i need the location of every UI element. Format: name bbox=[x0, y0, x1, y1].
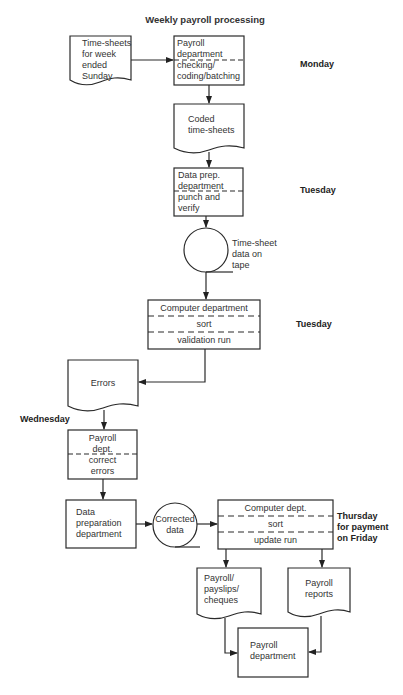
payroll-correct-label: Payroll dept. correct errors bbox=[68, 433, 137, 477]
line: ended bbox=[82, 60, 131, 71]
line: dept. bbox=[68, 444, 137, 455]
line: tape bbox=[232, 260, 277, 271]
computer-update-sort: sort bbox=[218, 519, 333, 530]
line: Time-sheet bbox=[232, 238, 277, 249]
line: Coded bbox=[188, 114, 235, 125]
line: time-sheets bbox=[188, 125, 235, 136]
diagram-title: Weekly payroll processing bbox=[120, 14, 290, 25]
line: verify bbox=[178, 203, 224, 214]
line: department bbox=[76, 529, 122, 540]
line: on Friday bbox=[337, 533, 389, 544]
computer-validation-header: Computer department bbox=[148, 303, 260, 314]
line: checking/ bbox=[177, 60, 240, 71]
payroll-final-label: Payroll department bbox=[250, 640, 296, 662]
line: Corrected bbox=[153, 514, 197, 525]
line: Sunday bbox=[82, 71, 131, 82]
errors-label: Errors bbox=[68, 378, 138, 389]
payslips-label: Payroll/ payslips/ cheques bbox=[204, 573, 239, 606]
line: Data bbox=[76, 507, 122, 518]
data-prep-dept-label: Data preparation department bbox=[76, 507, 122, 540]
computer-validation-run: validation run bbox=[148, 335, 260, 346]
tape-circle bbox=[184, 228, 228, 272]
day-monday: Monday bbox=[300, 59, 334, 70]
line: coding/batching bbox=[177, 71, 240, 82]
line: Time-sheets bbox=[82, 38, 131, 49]
line: Payroll/ bbox=[204, 573, 239, 584]
line: preparation bbox=[76, 518, 122, 529]
line: data on bbox=[232, 249, 277, 260]
timesheets-label: Time-sheets for week ended Sunday bbox=[82, 38, 131, 82]
edge-reports-to-final bbox=[309, 616, 321, 652]
line: cheques bbox=[204, 595, 239, 606]
data-prep-punch-label: Data prep. department punch and verify bbox=[178, 170, 224, 214]
line: Payroll bbox=[250, 640, 296, 651]
line: punch and bbox=[178, 192, 224, 203]
line: payslips/ bbox=[204, 584, 239, 595]
edge-payslips-to-final bbox=[225, 618, 237, 653]
line: Payroll bbox=[68, 433, 137, 444]
line: Data prep. bbox=[178, 170, 224, 181]
line: reports bbox=[288, 589, 350, 600]
day-thursday: Thursday for payment on Friday bbox=[337, 511, 389, 544]
day-tuesday-2: Tuesday bbox=[296, 319, 332, 330]
line: Thursday bbox=[337, 511, 389, 522]
edge-computer-to-errors bbox=[139, 349, 205, 382]
line: for week bbox=[82, 49, 131, 60]
computer-validation-sort: sort bbox=[148, 319, 260, 330]
payroll-dept-check-label: Payroll department checking/ coding/batc… bbox=[177, 38, 240, 82]
line: department bbox=[178, 181, 224, 192]
coded-timesheets-label: Coded time-sheets bbox=[188, 114, 235, 136]
computer-update-run: update run bbox=[218, 535, 333, 546]
line: for payment bbox=[337, 522, 389, 533]
corrected-data-label: Corrected data bbox=[153, 514, 197, 536]
line: Payroll bbox=[177, 38, 240, 49]
line: correct bbox=[68, 455, 137, 466]
line: errors bbox=[68, 466, 137, 477]
day-tuesday-1: Tuesday bbox=[300, 185, 336, 196]
day-wednesday: Wednesday bbox=[20, 414, 70, 425]
line: department bbox=[250, 651, 296, 662]
line: data bbox=[153, 525, 197, 536]
reports-label: Payroll reports bbox=[288, 578, 350, 600]
computer-update-header: Computer dept. bbox=[218, 503, 333, 514]
line: department bbox=[177, 49, 240, 60]
tape-label: Time-sheet data on tape bbox=[232, 238, 277, 271]
line: Payroll bbox=[288, 578, 350, 589]
